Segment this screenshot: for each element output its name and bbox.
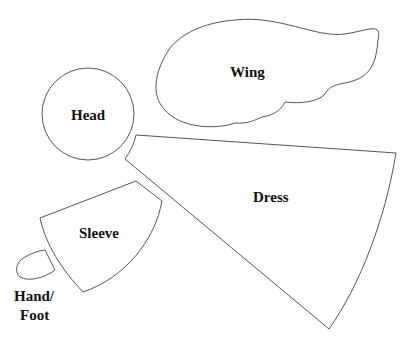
dress-piece bbox=[125, 135, 396, 329]
dress-label: Dress bbox=[253, 189, 289, 205]
wing-piece bbox=[156, 19, 379, 126]
head-label: Head bbox=[71, 107, 106, 123]
hand-foot-piece bbox=[17, 250, 55, 279]
wing-label: Wing bbox=[230, 64, 265, 80]
hand-label-line1: Hand/ bbox=[14, 288, 55, 304]
pattern-diagram: Wing Head Dress Sleeve Hand/ Foot bbox=[0, 0, 410, 342]
hand-label-line2: Foot bbox=[20, 307, 49, 323]
sleeve-label: Sleeve bbox=[79, 225, 119, 241]
